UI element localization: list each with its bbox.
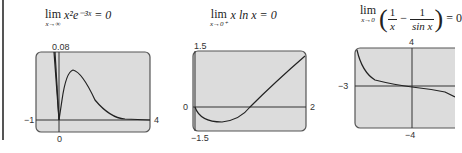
graph-2-ymin: −1.5: [191, 133, 209, 143]
graph-2-xmax: 2: [310, 102, 315, 112]
graph-3: [355, 48, 455, 128]
graph-1: [36, 52, 150, 132]
graph-3-xmin: −3: [338, 81, 348, 91]
graph-1-xmax: 4: [154, 115, 159, 125]
graph-2-xmin: 0: [183, 102, 188, 112]
graph-1-ymax: 0.08: [52, 42, 70, 52]
graph-3-ymin: −4: [405, 130, 415, 140]
graph-2-ymax: 1.5: [194, 41, 207, 51]
graph-3-ymax: 4: [409, 37, 414, 47]
graph-1-xmin: −1: [24, 115, 34, 125]
graph-1-ymin: 0: [57, 134, 62, 144]
graph-2: [193, 51, 306, 131]
